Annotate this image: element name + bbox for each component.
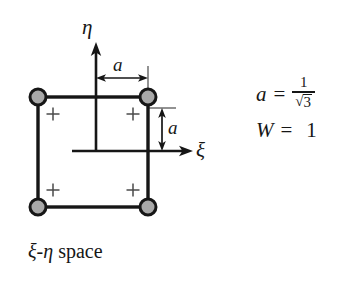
- corner-node-top-left: [30, 89, 46, 105]
- dimension-a-vertical-label: a: [168, 118, 178, 137]
- quadrature-point-top-left: [47, 108, 60, 121]
- formula-w-rhs: 1: [306, 118, 317, 143]
- caption-space-word: space: [58, 240, 102, 262]
- quadrature-point-top-right: [127, 108, 140, 121]
- dimension-a-horizontal: [96, 74, 148, 82]
- formula-block: a = 1 √ 3 W = 1: [256, 76, 356, 148]
- formula-a-numerator: 1: [297, 75, 311, 91]
- caption-eta-symbol: η: [43, 240, 53, 262]
- eta-axis-label: η: [82, 17, 92, 38]
- formula-a-denominator: √ 3: [292, 93, 315, 111]
- formula-w-definition: W = 1: [256, 112, 356, 148]
- formula-a-lhs: a: [256, 82, 267, 107]
- xi-axis: [72, 146, 193, 156]
- xi-axis-label: ξ: [196, 140, 205, 161]
- quadrature-point-bottom-left: [47, 184, 60, 197]
- dimension-a-vertical: [158, 108, 166, 151]
- formula-a-fraction: 1 √ 3: [292, 75, 315, 110]
- formula-a-radicand: 3: [303, 94, 313, 111]
- formula-a-definition: a = 1 √ 3: [256, 76, 356, 112]
- corner-node-bottom-left: [30, 199, 46, 215]
- dimension-a-horizontal-label: a: [113, 55, 123, 74]
- formula-a-operator: =: [274, 82, 286, 107]
- quadrature-point-bottom-right: [127, 184, 140, 197]
- formula-w-lhs: W: [256, 118, 274, 143]
- xi-eta-space-figure: η ξ a a a = 1 √ 3 W = 1: [0, 0, 358, 282]
- caption-xi-symbol: ξ: [28, 240, 37, 262]
- corner-node-top-right: [140, 89, 156, 105]
- formula-a-sqrt: √ 3: [295, 94, 312, 111]
- figure-caption: ξ-η space: [28, 240, 103, 263]
- formula-w-operator: =: [281, 118, 293, 143]
- corner-node-bottom-right: [140, 199, 156, 215]
